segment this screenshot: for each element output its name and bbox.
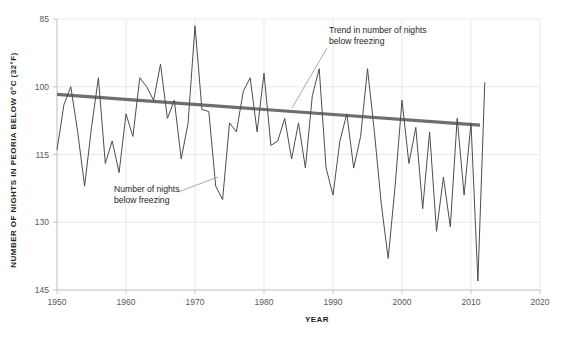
series-annotation-label: below freezing [114,195,170,205]
x-tick-label: 1950 [48,297,67,307]
y-tick-label: 115 [35,150,49,160]
y-tick-label: 130 [35,217,49,227]
y-tick-label: 100 [35,82,49,92]
x-axis-title: YEAR [305,315,329,324]
y-tick-label: 145 [35,285,49,295]
x-tick-label: 2010 [462,297,481,307]
trend-annotation-label: below freezing [329,36,385,46]
x-tick-label: 1990 [324,297,343,307]
trend-annotation-label: Trend in number of nights [329,25,427,35]
chart-container: 14513011510085 1950196019701980199020002… [0,0,577,338]
x-tick-label: 1980 [255,297,274,307]
x-tick-label: 2020 [531,297,550,307]
y-tick-label: 85 [40,14,50,24]
x-tick-label: 2000 [393,297,412,307]
x-tick-label: 1970 [186,297,205,307]
series-annotation-label: Number of nights [114,184,179,194]
y-axis-title: NUMBER OF NIGHTS IN PEORIA BELOW 0°C (32… [9,52,18,267]
x-tick-label: 1960 [117,297,136,307]
freezing-nights-line-chart: 14513011510085 1950196019701980199020002… [0,0,577,338]
